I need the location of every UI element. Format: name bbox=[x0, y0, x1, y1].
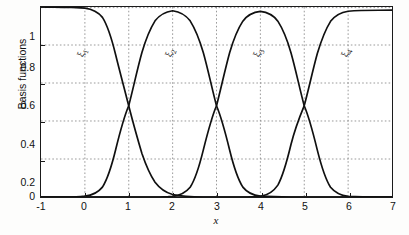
y-tickmark-0.4 bbox=[41, 122, 45, 123]
x-tickmark-6 bbox=[350, 193, 351, 197]
x-tickmark-2 bbox=[173, 193, 174, 197]
x-tick-label-0: 0 bbox=[73, 200, 95, 212]
x-tick-label-4: 4 bbox=[250, 200, 272, 212]
x-tick-label-7: 7 bbox=[382, 200, 404, 212]
y-tickmark-1 bbox=[41, 7, 45, 8]
x-tick-label-5: 5 bbox=[294, 200, 316, 212]
y-tick-label-0.4: 0.4 bbox=[0, 139, 35, 149]
x-axis-tick-labels: -1 0 1 2 3 4 5 6 7 bbox=[0, 200, 409, 216]
plot-svg bbox=[41, 7, 392, 197]
x-axis-title: x bbox=[214, 214, 219, 226]
figure-canvas: 1 0.8 0.6 0.4 0.2 0 Basis functions bbox=[0, 0, 409, 235]
vertical-gridlines bbox=[85, 7, 348, 197]
x-tick-label-1: 1 bbox=[117, 200, 139, 212]
plot-area: ξ1 ξ2 ξ3 ξ4 bbox=[40, 6, 393, 198]
x-tick-label-2: 2 bbox=[161, 200, 183, 212]
y-tickmark-0.8 bbox=[41, 45, 45, 46]
x-tickmark-1 bbox=[129, 193, 130, 197]
y-tickmark-0.2 bbox=[41, 161, 45, 162]
y-axis-title: Basis functions bbox=[16, 9, 28, 139]
y-tickmark-0.6 bbox=[41, 84, 45, 85]
x-tick-label-3: 3 bbox=[206, 200, 228, 212]
y-tick-label-0.2: 0.2 bbox=[0, 177, 35, 187]
x-tickmark-0 bbox=[85, 193, 86, 197]
x-tickmark-3 bbox=[217, 193, 218, 197]
x-tickmark-5 bbox=[306, 193, 307, 197]
x-tick-label--1: -1 bbox=[30, 200, 52, 212]
x-tick-label-6: 6 bbox=[338, 200, 360, 212]
x-tickmark-4 bbox=[262, 193, 263, 197]
